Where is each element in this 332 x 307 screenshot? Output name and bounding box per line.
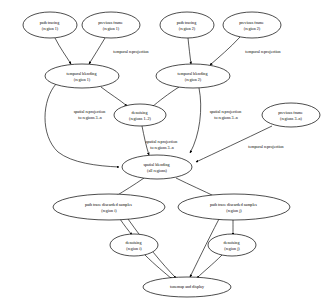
edge-pathtracing2-to-temporalblend2 bbox=[188, 38, 191, 64]
node-label: denoising (regions 1..2) bbox=[129, 110, 152, 121]
edge-pathtracing1-to-temporalblend1 bbox=[55, 38, 71, 64]
node-denoising-regions-1-2[interactable]: denoising (regions 1..2) bbox=[114, 104, 166, 126]
nodes-layer: path tracing (region 1) previous frame (… bbox=[23, 12, 320, 297]
node-label: previous frame (regions 3..n) bbox=[278, 110, 304, 121]
node-label: spatial blending (all regions) bbox=[143, 162, 170, 173]
node-discarded-samples-region-j[interactable]: path trace discarded samples (region j) bbox=[178, 194, 290, 220]
edge-label-spatial-reprojection-right: spatial reprojection to regions 3..n bbox=[210, 109, 243, 120]
edge-label-temporal-reprojection-2: temporal reprojection bbox=[245, 49, 280, 54]
edge-temporalblend1-to-denoising12 bbox=[101, 87, 127, 106]
node-label: denoising (region j) bbox=[224, 240, 241, 251]
edge-label-temporal-reprojection-3: temporal reprojection bbox=[248, 144, 283, 149]
node-path-tracing-region-2[interactable]: path tracing (region 2) bbox=[160, 12, 214, 38]
node-denoising-region-j[interactable]: denoising (region j) bbox=[208, 234, 256, 256]
node-spatial-blending-all-regions[interactable]: spatial blending (all regions) bbox=[122, 155, 192, 179]
node-temporal-blending-region-1[interactable]: temporal blending (region 1) bbox=[45, 64, 119, 88]
edge-prevframe1-to-temporalblend1 bbox=[89, 38, 105, 64]
node-denoising-region-i[interactable]: denoising (region i) bbox=[110, 234, 158, 256]
node-previous-frame-region-2[interactable]: previous frame (region 2) bbox=[223, 12, 281, 38]
node-discarded-samples-region-i[interactable]: path trace discarded samples (region i) bbox=[53, 194, 165, 220]
node-previous-frame-region-1[interactable]: previous frame (region 1) bbox=[82, 12, 140, 38]
edge-spatialblend-to-discarded-i bbox=[116, 178, 144, 196]
edge-label-temporal-reprojection-1: temporal reprojection bbox=[113, 49, 148, 54]
edge-label-spatial-reprojection-middle: spatial reprojection to regions 3..n bbox=[146, 139, 179, 150]
edge-temporalblend2-to-spatialblend bbox=[190, 88, 201, 153]
node-label: path tracing (region 1) bbox=[40, 20, 60, 31]
edge-temporalblend2-to-denoising12 bbox=[152, 87, 179, 107]
edge-discarded-i-to-denoising-i bbox=[120, 219, 132, 235]
edge-denoising-j-to-tonemap bbox=[197, 255, 222, 278]
node-label: tonemap and display bbox=[170, 284, 205, 289]
edge-labels-layer: temporal reprojection temporal reproject… bbox=[74, 49, 284, 150]
edge-spatialblend-to-discarded-j bbox=[176, 178, 216, 197]
edge-label-spatial-reprojection-left: spatial reprojection to regions 3..n bbox=[74, 109, 107, 120]
graph-canvas: temporal reprojection temporal reproject… bbox=[0, 0, 332, 307]
edge-temporalblend1-to-spatialblend bbox=[45, 84, 119, 167]
node-label: denoising (region i) bbox=[126, 240, 143, 251]
edge-prevframe2-to-temporalblend2 bbox=[210, 37, 240, 65]
node-temporal-blending-region-2[interactable]: temporal blending (region 2) bbox=[156, 64, 230, 88]
pipeline-diagram: temporal reprojection temporal reproject… bbox=[0, 0, 332, 307]
node-label: path tracing (region 2) bbox=[177, 20, 197, 31]
node-path-tracing-region-1[interactable]: path tracing (region 1) bbox=[23, 12, 77, 38]
node-tonemap-and-display[interactable]: tonemap and display bbox=[143, 277, 231, 297]
node-previous-frame-regions-3-n[interactable]: previous frame (regions 3..n) bbox=[262, 103, 320, 127]
